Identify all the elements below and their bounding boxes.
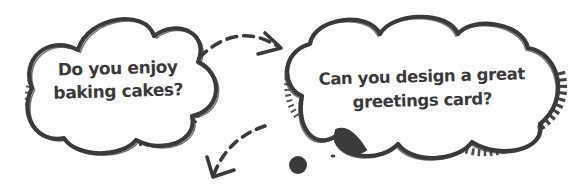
left-bubble-line2: baking cakes? bbox=[34, 78, 203, 105]
left-bubble-text: Do you enjoy baking cakes? bbox=[33, 55, 202, 105]
dashed-curved-arrow-down-left-icon bbox=[207, 126, 265, 177]
right-bubble-text: Can you design a great greetings card? bbox=[315, 62, 528, 116]
sketch-canvas: Do you enjoy baking cakes? Can you desig… bbox=[0, 0, 579, 186]
thought-bubble-dots-icon bbox=[289, 155, 336, 175]
dashed-curved-arrow-right-icon bbox=[199, 33, 281, 58]
